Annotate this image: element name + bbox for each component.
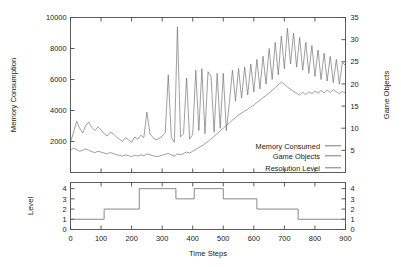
y-axis-label-memory-consumption: Memory Consumption bbox=[9, 58, 18, 132]
level-ticklabel-right: 2 bbox=[351, 205, 355, 214]
chart-figure: 200040006000800010000 5101520253035 Memo… bbox=[0, 0, 401, 267]
chart-background bbox=[0, 0, 401, 267]
x-ticklabel: 500 bbox=[217, 234, 229, 243]
y-ticklabel-right: 15 bbox=[351, 102, 359, 111]
x-ticklabel: 900 bbox=[339, 234, 351, 243]
y-ticklabel-left: 10000 bbox=[46, 13, 67, 22]
legend-label-memory-consumed: Memory Consumed bbox=[256, 142, 320, 151]
legend-label-resolution-level: Resolution Level bbox=[265, 164, 320, 173]
y-ticklabel-left: 6000 bbox=[50, 75, 66, 84]
y-ticklabel-right: 5 bbox=[351, 146, 355, 155]
x-ticklabel: 700 bbox=[278, 234, 290, 243]
y-ticklabel-right: 25 bbox=[351, 57, 359, 66]
x-ticklabel: 400 bbox=[187, 234, 199, 243]
y-ticklabel-right: 10 bbox=[351, 124, 359, 133]
y-ticklabel-right: 20 bbox=[351, 80, 359, 89]
level-ticklabel-left: 3 bbox=[62, 195, 66, 204]
y-axis-label-game-objects: Game Objects bbox=[382, 71, 391, 120]
resolution-panel-left-ticklabels: 01234 bbox=[62, 184, 66, 234]
level-ticklabel-left: 1 bbox=[62, 215, 66, 224]
x-ticklabel: 200 bbox=[125, 234, 137, 243]
y-axis-label-level: Level bbox=[26, 197, 35, 215]
chart-svg: 200040006000800010000 5101520253035 Memo… bbox=[0, 0, 401, 267]
resolution-panel-right-ticklabels: 01234 bbox=[351, 184, 355, 234]
level-ticklabel-right: 1 bbox=[351, 215, 355, 224]
x-ticklabel: 300 bbox=[156, 234, 168, 243]
level-ticklabel-right: 3 bbox=[351, 195, 355, 204]
level-ticklabel-right: 4 bbox=[351, 184, 355, 193]
legend-label-game-objects: Game Objects bbox=[273, 152, 321, 161]
y-ticklabel-right: 30 bbox=[351, 35, 359, 44]
x-axis-label-time-steps: Time Steps bbox=[189, 249, 227, 258]
y-ticklabel-right: 35 bbox=[351, 13, 359, 22]
level-ticklabel-left: 0 bbox=[62, 225, 66, 234]
level-ticklabel-left: 4 bbox=[62, 184, 66, 193]
x-ticklabel: 800 bbox=[309, 234, 321, 243]
x-ticklabel: 100 bbox=[95, 234, 107, 243]
y-ticklabel-left: 4000 bbox=[50, 106, 66, 115]
x-ticklabel: 0 bbox=[68, 234, 72, 243]
x-ticklabel: 600 bbox=[248, 234, 260, 243]
level-ticklabel-left: 2 bbox=[62, 205, 66, 214]
y-ticklabel-left: 2000 bbox=[50, 137, 66, 146]
y-ticklabel-left: 8000 bbox=[50, 44, 66, 53]
